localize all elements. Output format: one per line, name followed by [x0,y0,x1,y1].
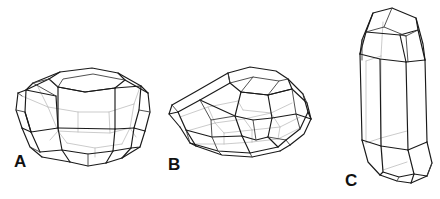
panel-label-a: A [14,152,26,171]
crystal-c-visible-edges [360,8,432,183]
crystal-a-visible-edges [16,68,150,166]
crystal-c-hidden-edges [366,22,407,170]
crystal-c-drawing: C [345,8,432,190]
panel-label-b: B [168,155,180,174]
panel-label-c: C [345,171,357,190]
crystal-b-visible-edges [169,67,311,157]
crystal-a-drawing: A [14,68,150,171]
crystal-habit-figure: A [0,0,440,199]
crystal-b-hidden-edges [180,101,300,144]
crystal-b-drawing: B [168,67,311,174]
crystal-a-hidden-edges [22,85,140,157]
crystal-a-mid-edges [18,93,22,96]
figure-canvas: A [0,0,440,199]
